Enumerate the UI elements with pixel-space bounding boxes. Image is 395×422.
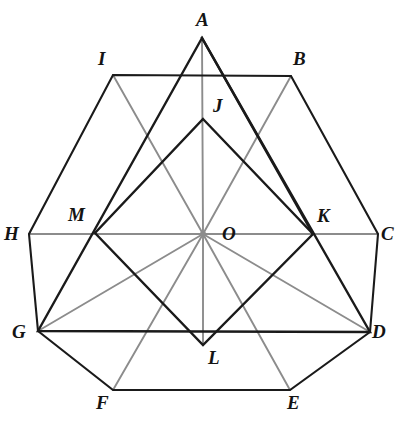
vertex-label-a: A <box>196 10 209 29</box>
geometry-figure: ABCDEFGHIJKLMO <box>0 0 395 422</box>
vertex-label-o: O <box>222 224 236 243</box>
vertex-dot-layer <box>200 231 206 237</box>
center-point-dot <box>200 231 206 237</box>
vertex-label-i: I <box>98 49 105 68</box>
ray-O-to-A <box>202 38 203 234</box>
triangle-AGD <box>38 38 370 332</box>
vertex-label-k: K <box>317 206 330 225</box>
vertex-label-c: C <box>381 224 394 243</box>
vertex-label-l: L <box>208 348 220 367</box>
vertex-label-m: M <box>68 205 85 224</box>
ray-O-to-F <box>113 234 203 390</box>
ray-O-to-G <box>38 234 203 331</box>
vertex-label-b: B <box>293 49 306 68</box>
vertex-label-h: H <box>4 224 19 243</box>
ray-O-to-D <box>203 234 370 332</box>
vertex-label-e: E <box>287 393 300 412</box>
vertex-label-j: J <box>213 96 223 115</box>
vertex-label-g: G <box>12 322 26 341</box>
vertex-label-f: F <box>96 393 109 412</box>
geometry-canvas <box>0 0 395 422</box>
ray-O-to-I <box>113 75 203 234</box>
vertex-label-d: D <box>372 322 386 341</box>
